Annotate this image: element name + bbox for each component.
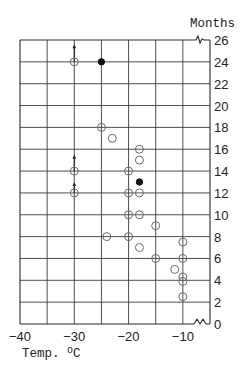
y-tick-label: 10: [214, 208, 228, 223]
y-axis-title: Months: [190, 17, 235, 31]
open-data-point: [179, 277, 187, 285]
y-tick-label: 4: [214, 273, 221, 288]
y-tick-label: 16: [214, 142, 228, 157]
open-data-point: [97, 123, 105, 131]
open-data-point: [135, 156, 143, 164]
open-data-point: [70, 58, 78, 66]
y-tick-label: 8: [214, 230, 221, 245]
y-tick-label: 20: [214, 99, 228, 114]
open-data-point: [135, 244, 143, 252]
y-tick-label: 14: [214, 164, 228, 179]
bottom-axis-break-line: [20, 319, 210, 324]
x-tick-labels: −40−30−20−10: [9, 329, 194, 344]
open-data-point: [125, 211, 133, 219]
open-data-point: [125, 167, 133, 175]
x-tick-label: −20: [118, 329, 140, 344]
x-tick-label: −40: [9, 329, 31, 344]
y-tick-label: 6: [214, 251, 221, 266]
y-tick-label: 26: [214, 33, 228, 48]
open-data-point: [152, 254, 160, 262]
y-tick-label: 18: [214, 120, 228, 135]
filled-data-point: [98, 59, 104, 65]
open-data-point: [125, 233, 133, 241]
open-data-point: [179, 254, 187, 262]
x-tick-label: −10: [172, 329, 194, 344]
y-tick-label: 24: [214, 55, 228, 70]
y-tick-label: 2: [214, 295, 221, 310]
open-data-point: [135, 211, 143, 219]
open-data-point: [70, 167, 78, 175]
open-data-point: [70, 189, 78, 197]
open-data-point: [103, 233, 111, 241]
x-axis-title: Temp. oC: [22, 345, 81, 361]
x-tick-label: −30: [63, 329, 85, 344]
open-data-point: [135, 189, 143, 197]
open-data-point: [125, 189, 133, 197]
arrow-up-icon: [72, 44, 76, 48]
open-data-point: [179, 293, 187, 301]
arrow-up-icon: [72, 182, 76, 186]
open-data-point: [171, 265, 179, 273]
arrow-up-icon: [72, 155, 76, 159]
open-data-point: [135, 145, 143, 153]
y-tick-labels: 02468101214161820222426: [214, 33, 228, 332]
scatter-chart: 02468101214161820222426 −40−30−20−10 Mon…: [0, 0, 251, 375]
open-data-point: [179, 238, 187, 246]
y-tick-label: 12: [214, 186, 228, 201]
y-tick-label: 0: [214, 317, 221, 332]
open-data-point: [108, 134, 116, 142]
open-data-point: [152, 222, 160, 230]
y-tick-label: 22: [214, 77, 228, 92]
top-axis-break-line: [20, 36, 210, 43]
filled-data-point: [136, 179, 142, 185]
